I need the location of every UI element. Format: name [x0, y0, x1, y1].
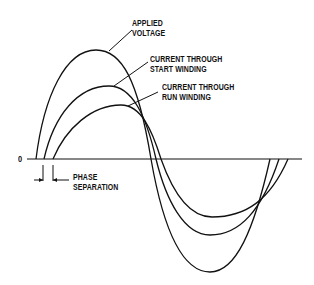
label-line: SEPARATION	[73, 182, 118, 192]
phase-arrowhead-left	[39, 178, 43, 182]
zero-label: 0	[18, 154, 22, 164]
label-line: START WINDING	[150, 64, 222, 74]
phase-arrowhead-right	[53, 178, 57, 182]
waveform-svg	[0, 0, 314, 285]
label-line: CURRENT THROUGH	[162, 82, 234, 92]
label-line: RUN WINDING	[162, 92, 234, 102]
phase-separation-label: PHASE SEPARATION	[73, 172, 118, 192]
start-winding-leader-line	[114, 62, 148, 86]
label-line: CURRENT THROUGH	[150, 54, 222, 64]
applied-voltage-curve	[36, 50, 270, 272]
applied-voltage-label: APPLIED VOLTAGE	[132, 18, 165, 38]
label-line: VOLTAGE	[132, 28, 165, 38]
run-winding-label: CURRENT THROUGH RUN WINDING	[162, 82, 234, 102]
label-line: APPLIED	[132, 18, 165, 28]
label-line: PHASE	[73, 172, 118, 182]
voltage-leader-line	[109, 30, 132, 51]
start-winding-label: CURRENT THROUGH START WINDING	[150, 54, 222, 74]
waveform-diagram: 0 APPLIED VOLTAGE CURRENT THROUGH START …	[0, 0, 314, 285]
